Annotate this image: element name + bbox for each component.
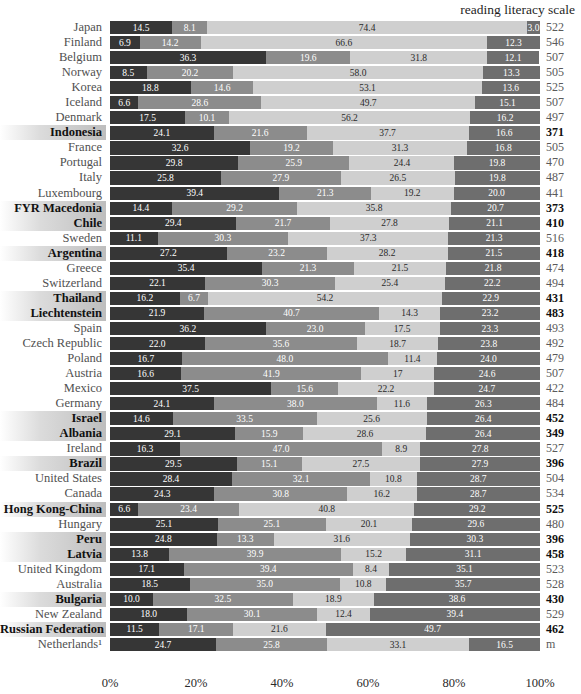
- stacked-bar: 14.633.525.626.4: [110, 412, 540, 425]
- reading-literacy-score: 418: [546, 246, 579, 261]
- reading-literacy-score: 523: [546, 562, 579, 577]
- reading-literacy-score: 507: [546, 366, 579, 381]
- bar-segment-3: 27.8: [330, 217, 450, 230]
- chart-row: Australia18.535.010.835.7528: [0, 577, 581, 592]
- chart-row: Hungary25.125.120.129.6480: [0, 517, 581, 532]
- bar-segment-3: 15.2: [341, 548, 406, 561]
- reading-literacy-score: 492: [546, 336, 579, 351]
- bar-segment-1: 14.6: [110, 412, 173, 425]
- bar-segment-2: 15.6: [271, 382, 338, 395]
- bar-segment-1: 16.3: [110, 442, 180, 455]
- stacked-bar: 29.115.928.626.4: [110, 427, 540, 440]
- stacked-bar: 24.813.331.630.3: [110, 533, 540, 546]
- reading-literacy-score: 494: [546, 276, 579, 291]
- stacked-bar: 32.619.231.316.8: [110, 141, 540, 154]
- reading-literacy-score: 479: [546, 351, 579, 366]
- chart-row: Peru24.813.331.630.3396: [0, 532, 581, 547]
- stacked-bar: 28.432.110.828.7: [110, 472, 540, 485]
- bar-segment-1: 36.3: [110, 51, 266, 64]
- country-label: Brazil: [0, 456, 106, 471]
- bar-segment-1: 18.8: [110, 81, 191, 94]
- x-axis: 0%20%40%60%80%100%: [110, 676, 540, 694]
- country-label: Luxembourg: [0, 186, 106, 201]
- bar-segment-2: 21.3: [279, 187, 371, 200]
- chart-row: Ireland16.347.08.927.8527: [0, 441, 581, 456]
- stacked-bar: 39.421.319.220.0: [110, 187, 540, 200]
- bar-segment-1: 14.4: [110, 202, 172, 215]
- bar-segment-3: 31.3: [333, 141, 468, 154]
- bar-segment-2: 17.1: [159, 623, 233, 636]
- country-label: Denmark: [0, 110, 106, 125]
- bar-segment-1: 8.5: [110, 66, 147, 79]
- bar-segment-3: 10.8: [340, 578, 386, 591]
- bar-segment-2: 48.0: [182, 352, 388, 365]
- country-label: Russian Federation: [0, 622, 106, 637]
- bar-segment-1: 17.1: [110, 563, 184, 576]
- reading-literacy-score: 525: [546, 80, 579, 95]
- bar-segment-2: 25.8: [216, 638, 327, 651]
- reading-literacy-score: 497: [546, 110, 579, 125]
- bar-segment-1: 32.6: [110, 141, 250, 154]
- stacked-bar: 14.429.235.820.7: [110, 202, 540, 215]
- bar-segment-3: 37.7: [307, 126, 469, 139]
- stacked-bar: 18.030.112.439.4: [110, 608, 540, 621]
- bar-segment-4: 20.0: [454, 187, 540, 200]
- reading-literacy-score: 373: [546, 201, 579, 216]
- bar-segment-2: 23.2: [227, 247, 327, 260]
- stacked-bar: 36.319.631.812.1: [110, 51, 540, 64]
- axis-tick-label: 80%: [443, 676, 466, 691]
- country-label: United States: [0, 471, 106, 486]
- reading-literacy-score: m: [546, 637, 579, 652]
- country-label: Bulgaria: [0, 592, 106, 607]
- bar-segment-1: 6.6: [110, 96, 138, 109]
- chart-row: Latvia13.839.915.231.1458: [0, 547, 581, 562]
- bar-segment-4: 16.5: [469, 638, 540, 651]
- country-label: Netherlands¹: [0, 637, 106, 652]
- bar-segment-4: 27.9: [420, 457, 540, 470]
- stacked-bar: 24.121.637.716.6: [110, 126, 540, 139]
- bar-segment-1: 39.4: [110, 187, 279, 200]
- bar-segment-3: 14.3: [379, 307, 440, 320]
- bar-segment-2: 30.8: [214, 487, 346, 500]
- chart-row: Spain36.223.017.523.3493: [0, 321, 581, 336]
- bar-segment-2: 25.1: [218, 518, 326, 531]
- axis-tick-label: 0%: [102, 676, 119, 691]
- stacked-bar: 13.839.915.231.1: [110, 548, 540, 561]
- bar-segment-3: 10.8: [370, 472, 416, 485]
- bar-segment-2: 25.9: [238, 156, 349, 169]
- bar-segment-1: 25.8: [110, 171, 221, 184]
- bar-segment-1: 16.2: [110, 292, 180, 305]
- bar-segment-1: 35.4: [110, 262, 262, 275]
- country-label: Japan: [0, 20, 106, 35]
- chart-row: Canada24.330.816.228.7534: [0, 486, 581, 501]
- stacked-bar: 10.032.518.938.6: [110, 593, 540, 606]
- country-label: Iceland: [0, 95, 106, 110]
- stacked-bar: 11.130.337.321.3: [110, 232, 540, 245]
- bar-segment-3: 17.5: [365, 322, 440, 335]
- bar-segment-3: 31.6: [274, 533, 410, 546]
- bar-segment-3: 11.4: [388, 352, 437, 365]
- reading-literacy-score: 507: [546, 95, 579, 110]
- reading-literacy-score: 452: [546, 411, 579, 426]
- reading-literacy-score: 493: [546, 321, 579, 336]
- bar-segment-3: 37.3: [288, 232, 448, 245]
- reading-literacy-score: 529: [546, 607, 579, 622]
- country-label: Albania: [0, 426, 106, 441]
- stacked-bar: 6.914.266.612.3: [110, 36, 540, 49]
- stacked-bar: 24.725.833.116.5: [110, 638, 540, 651]
- chart-row: Finland6.914.266.612.3546: [0, 35, 581, 50]
- country-label: Israel: [0, 411, 106, 426]
- chart-row: Greece35.421.321.521.8474: [0, 261, 581, 276]
- country-label: Greece: [0, 261, 106, 276]
- country-label: Spain: [0, 321, 106, 336]
- reading-literacy-score: 528: [546, 577, 579, 592]
- country-label: FYR Macedonia: [0, 201, 106, 216]
- bar-segment-3: 58.0: [233, 66, 482, 79]
- chart-row: Belgium36.319.631.812.1507: [0, 50, 581, 65]
- reading-literacy-score: 504: [546, 471, 579, 486]
- country-label: Hong Kong-China: [0, 502, 106, 517]
- chart-row: Luxembourg39.421.319.220.0441: [0, 186, 581, 201]
- stacked-bar: 11.517.121.649.7: [110, 623, 540, 636]
- bar-segment-4: 13.6: [482, 81, 540, 94]
- bar-segment-4: 31.1: [406, 548, 540, 561]
